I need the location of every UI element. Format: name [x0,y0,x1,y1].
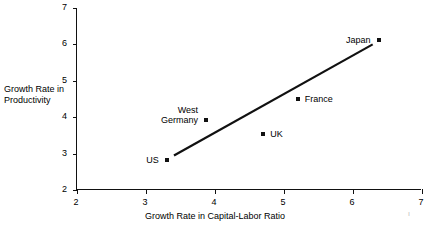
scatter-chart: Growth Rate in Productivity USWestGerman… [0,0,430,227]
y-tick-label: 2 [45,185,67,194]
scan-artifact-mark: ı [408,210,410,217]
data-point-label: UK [270,129,283,139]
data-point-label-line: Japan [346,35,371,45]
y-tick-label: 7 [45,3,67,12]
x-tick-label: 7 [411,198,430,207]
y-axis-title-line-2: Productivity [4,95,76,106]
data-point-marker [377,38,381,42]
x-tick-label: 2 [66,198,86,207]
x-tick-label: 4 [204,198,224,207]
y-tick-label: 6 [45,39,67,48]
x-tick [284,189,285,194]
y-tick [73,81,77,82]
y-tick [73,44,77,45]
x-tick [215,189,216,194]
x-axis-title: Growth Rate in Capital-Labor Ratio [0,211,430,222]
y-tick-label: 5 [45,76,67,85]
data-point-marker [296,97,300,101]
y-tick [73,117,77,118]
x-tick [146,189,147,194]
data-point-marker [204,118,208,122]
x-tick [77,189,78,194]
y-tick-label: 4 [45,112,67,121]
data-point-label: France [305,94,333,104]
data-point-label-line: Germany [161,115,198,125]
data-point-marker [165,158,169,162]
x-tick [353,189,354,194]
data-point-label-line: West [161,105,198,115]
y-tick-label: 3 [45,149,67,158]
x-tick-label: 5 [273,198,293,207]
data-point-label: WestGermany [161,105,198,125]
y-tick [73,8,77,9]
x-tick-label: 6 [342,198,362,207]
data-point-label-line: US [146,155,159,165]
data-point-label: Japan [346,35,371,45]
y-axis-title: Growth Rate in Productivity [4,84,76,106]
y-axis-title-line-1: Growth Rate in [4,84,76,95]
y-tick [73,154,77,155]
data-point-label-line: UK [270,129,283,139]
data-point-label-line: France [305,94,333,104]
data-point-marker [261,132,265,136]
data-point-label: US [146,155,159,165]
x-tick-label: 3 [135,198,155,207]
x-tick [422,189,423,194]
plot-area: USWestGermanyUKFranceJapan [76,8,421,190]
